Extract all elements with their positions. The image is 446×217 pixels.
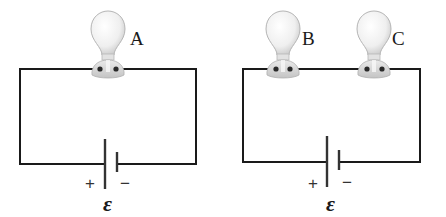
- circuit-1: A + − ε: [20, 11, 196, 216]
- battery-2-emf-symbol: ε: [326, 191, 335, 216]
- battery-1-plus-sign: +: [85, 174, 95, 193]
- battery-1-emf-symbol: ε: [103, 191, 112, 216]
- bulb-b-terminal-left: [273, 66, 278, 71]
- bulb-c-terminal-left: [364, 66, 369, 71]
- battery-1-minus-sign: −: [120, 174, 130, 193]
- battery-2-minus-sign: −: [342, 173, 352, 192]
- bulb-c-label: C: [392, 28, 405, 49]
- bulb-b-label: B: [302, 28, 315, 49]
- circuit-1-wires: [20, 69, 196, 164]
- bulb-b: [266, 11, 300, 78]
- bulb-a: [91, 11, 125, 78]
- bulb-a-terminal-right: [113, 66, 118, 71]
- bulb-a-label: A: [130, 28, 144, 49]
- bulb-c: [357, 11, 391, 78]
- circuit-2-wires: [243, 69, 420, 162]
- battery-1: + − ε: [20, 139, 196, 216]
- bulb-c-terminal-right: [379, 66, 384, 71]
- battery-2: + − ε: [243, 136, 420, 216]
- battery-2-plus-sign: +: [308, 174, 318, 193]
- circuit-diagram: A + − ε B: [0, 0, 446, 217]
- bulb-a-terminal-left: [97, 66, 102, 71]
- circuit-2: B C + − ε: [243, 11, 420, 216]
- bulb-b-terminal-right: [287, 66, 292, 71]
